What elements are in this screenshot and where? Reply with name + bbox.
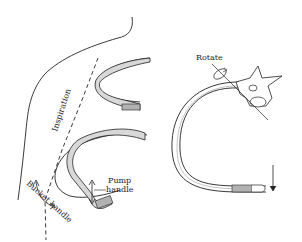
pump-handle-label-line2: handle — [106, 185, 134, 194]
pump-handle-label-line1: Pump — [108, 176, 131, 185]
upper-rib — [95, 58, 150, 110]
rotate-label: Rotate — [196, 53, 223, 62]
lower-rib — [55, 129, 147, 208]
descent-arrow — [270, 165, 276, 191]
inspiration-label: Inspiration — [50, 88, 72, 133]
vertebra — [236, 66, 282, 107]
rib-movement-diagram: Inspiration Bucket handle Pump handle Ro… — [0, 0, 302, 242]
diagram-canvas: Inspiration Bucket handle Pump handle Ro… — [0, 0, 302, 242]
